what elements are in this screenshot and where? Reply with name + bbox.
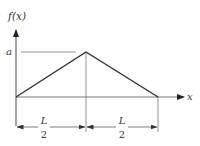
triangle-function-curve bbox=[16, 52, 158, 97]
peak-value-label: a bbox=[6, 46, 12, 57]
left-dimension-denominator: 2 bbox=[41, 129, 47, 140]
right-dimension-denominator: 2 bbox=[119, 129, 125, 140]
x-axis-label: x bbox=[187, 91, 193, 102]
right-dimension-numerator: L bbox=[118, 115, 126, 126]
triangle-function-diagram: f(x) x a L 2 L 2 bbox=[0, 0, 200, 146]
y-axis-label: f(x) bbox=[7, 10, 26, 22]
left-dimension-numerator: L bbox=[40, 115, 48, 126]
